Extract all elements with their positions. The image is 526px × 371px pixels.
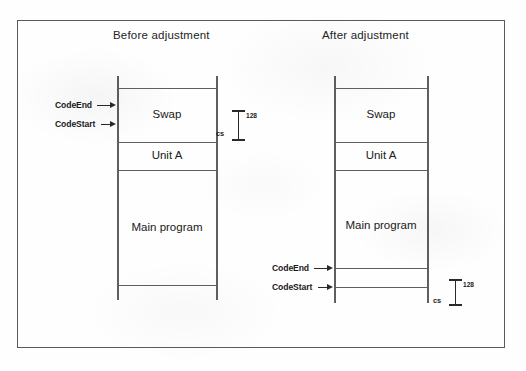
segment-label-swap-before: Swap [117,108,217,120]
panel-title-before: Before adjustment [113,29,210,41]
panel-title-after: After adjustment [322,29,409,41]
segment-label-main-program-before: Main program [117,221,217,233]
cs-size-value-after: 128 [463,281,474,288]
cs-stem-icon [455,279,456,305]
cs-stem-icon [238,110,239,140]
divider-swap-unita-after [334,142,428,143]
segment-label-unita-before: Unit A [117,149,217,161]
segment-label-swap-after: Swap [334,108,428,120]
divider-bottom-before [117,285,217,286]
divider-unita-main-after [334,170,428,171]
segment-label-main-program-after: Main program [334,219,428,231]
cs-cap-bottom-icon [449,304,462,306]
cs-label-after: cs [433,296,441,305]
divider-unita-main-before [117,170,217,171]
divider-top-after [334,88,428,89]
arrow-head-icon [110,121,116,127]
pointer-label-codestart-after: CodeStart [272,282,312,292]
divider-top-before [117,88,217,89]
cs-label-before: cs [216,129,224,138]
pointer-shaft-codeend-after [314,268,328,269]
pointer-label-codestart-before: CodeStart [55,119,95,129]
divider-codeend-after [334,268,428,269]
arrow-head-icon [327,265,333,271]
pointer-label-codeend-before: CodeEnd [55,100,92,110]
cs-cap-bottom-icon [232,139,245,141]
divider-codestart-after [334,287,428,288]
pointer-label-codeend-after: CodeEnd [272,263,309,273]
segment-label-unita-after: Unit A [334,149,428,161]
arrow-head-icon [327,284,333,290]
cs-size-annotation-after: cs 128 [449,279,479,311]
arrow-head-icon [110,102,116,108]
divider-swap-unita-before [117,142,217,143]
pointer-shaft-codeend-before [97,105,111,106]
cs-size-annotation-before: cs 128 [232,110,262,142]
document-frame [17,20,505,348]
cs-size-value-before: 128 [246,112,257,119]
